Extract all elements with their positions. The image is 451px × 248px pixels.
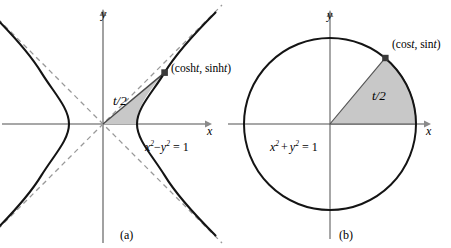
point-label-a: (cosht, sinht) <box>171 63 231 75</box>
point-label-b-close: ) <box>437 38 441 50</box>
eq-b-plus: + <box>281 140 288 154</box>
area-label-b: t/2 <box>372 89 386 102</box>
eq-b-exp2: 2 <box>295 139 299 148</box>
point-label-b: (cost, sint) <box>392 39 441 51</box>
asymptote-negative-slope <box>0 19 222 243</box>
panel-hyperbola: y x t/2 (cosht, sinht) x2−y2= 1 (a) <box>0 0 225 248</box>
equation-label-a: x2−y2= 1 <box>145 140 189 153</box>
figure-root: y x t/2 (cosht, sinht) x2−y2= 1 (a) y x … <box>0 0 451 248</box>
x-axis-label-b: x <box>426 125 431 137</box>
eq-b-exp1: 2 <box>275 139 279 148</box>
eq-b-equals: = 1 <box>302 140 318 154</box>
eq-a-minus: − <box>154 140 161 154</box>
equation-label-b: x2+y2= 1 <box>270 140 318 153</box>
y-axis-label-a: y <box>101 8 106 20</box>
eq-a-exp2: 2 <box>166 139 170 148</box>
panel-caption-b: (b) <box>339 228 353 243</box>
point-label-a-comma: , sinh <box>199 62 224 74</box>
hyperbola-plot <box>0 0 225 248</box>
y-axis-label-b: y <box>327 9 332 21</box>
eq-a-equals: = 1 <box>173 140 189 154</box>
panel-circle: y x t/2 (cost, sint) x2+y2= 1 (b) <box>226 0 451 248</box>
point-label-a-open: (cosh <box>171 62 196 74</box>
point-marker-cosh-sinh <box>161 69 168 76</box>
point-marker-cos-sin <box>382 55 388 61</box>
point-label-b-open: (cos <box>392 38 411 50</box>
panel-caption-a: (a) <box>120 228 133 243</box>
axes-group-a <box>2 9 212 243</box>
area-label-a: t/2 <box>113 94 127 107</box>
point-label-b-comma: , sin <box>414 38 433 50</box>
x-axis-label-a: x <box>207 125 212 137</box>
